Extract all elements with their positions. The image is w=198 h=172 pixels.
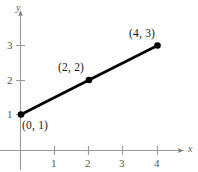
data-point-0-1 [18, 111, 25, 118]
x-tick-label-4: 4 [154, 158, 160, 169]
y-tick-label-3: 3 [7, 40, 13, 51]
y-tick-label-1: 1 [7, 109, 13, 120]
x-tick-label-1: 1 [51, 158, 57, 169]
x-tick-label-2: 2 [85, 158, 91, 169]
y-axis-label: y [16, 3, 20, 13]
coordinate-plane-figure: y x 3 2 1 1 2 3 4 (0, 1) (2, 2) (4, 3) [0, 0, 198, 172]
data-point-2-2 [86, 77, 93, 84]
x-axis-label: x [188, 144, 192, 154]
x-tick-label-3: 3 [119, 158, 125, 169]
point-annotation-0-1: (0, 1) [22, 120, 48, 132]
data-point-4-3 [154, 42, 161, 49]
y-tick-label-2: 2 [7, 75, 13, 86]
point-annotation-4-3: (4, 3) [129, 28, 155, 40]
plot-canvas [0, 0, 198, 172]
point-annotation-2-2: (2, 2) [58, 62, 84, 74]
